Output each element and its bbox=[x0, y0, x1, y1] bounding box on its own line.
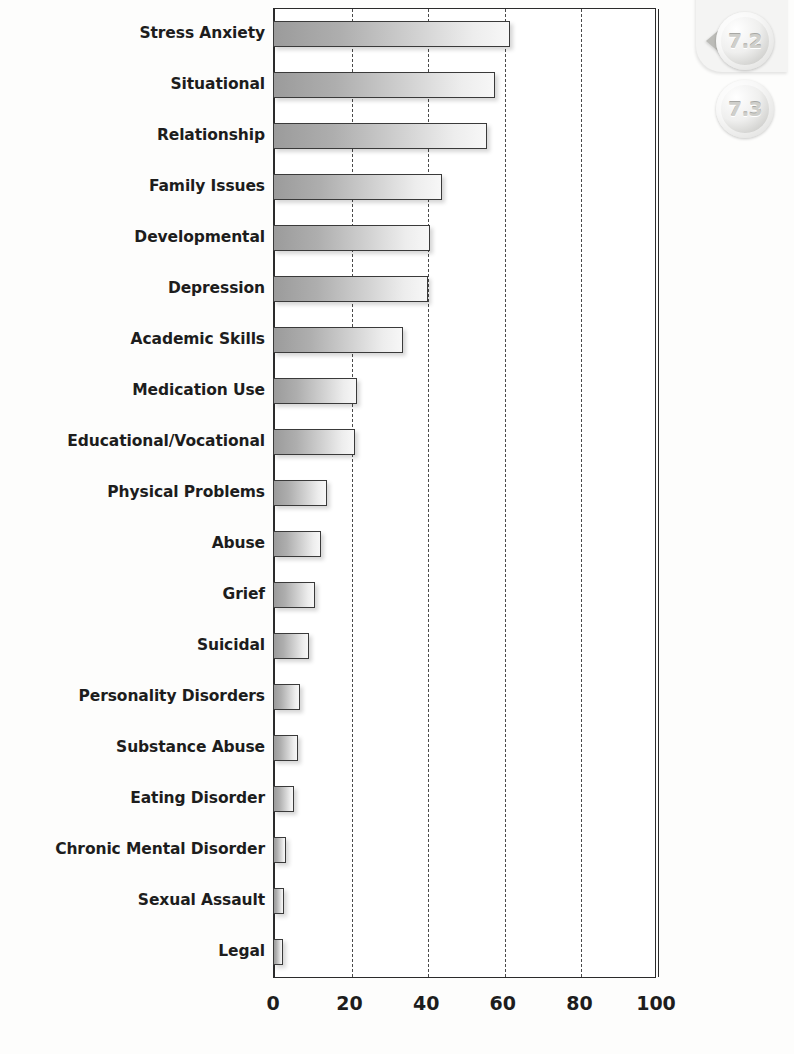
category-label: Sexual Assault bbox=[0, 891, 265, 909]
bar bbox=[273, 837, 286, 863]
bar bbox=[273, 888, 284, 914]
bar bbox=[273, 276, 428, 302]
bar bbox=[273, 72, 495, 98]
horizontal-bar-chart: Stress AnxietySituationalRelationshipFam… bbox=[0, 0, 794, 1054]
category-axis-labels: Stress AnxietySituationalRelationshipFam… bbox=[0, 8, 265, 978]
bar bbox=[273, 327, 403, 353]
category-label: Relationship bbox=[0, 126, 265, 144]
category-label: Legal bbox=[0, 942, 265, 960]
bar bbox=[273, 684, 300, 710]
category-label: Chronic Mental Disorder bbox=[0, 840, 265, 858]
bookmark-tab-7-2[interactable]: 7.2 bbox=[716, 12, 774, 70]
category-label: Grief bbox=[0, 585, 265, 603]
bar bbox=[273, 378, 357, 404]
bookmark-tab-7-3[interactable]: 7.3 bbox=[716, 80, 774, 138]
bar bbox=[273, 21, 510, 47]
bar bbox=[273, 429, 355, 455]
bar bbox=[273, 633, 309, 659]
category-label: Academic Skills bbox=[0, 330, 265, 348]
x-tick-label: 40 bbox=[413, 992, 439, 1014]
category-label: Medication Use bbox=[0, 381, 265, 399]
bar bbox=[273, 531, 321, 557]
category-label: Eating Disorder bbox=[0, 789, 265, 807]
bar bbox=[273, 225, 430, 251]
bar bbox=[273, 174, 442, 200]
x-tick-label: 60 bbox=[490, 992, 516, 1014]
x-tick-label: 80 bbox=[566, 992, 592, 1014]
bar bbox=[273, 123, 487, 149]
category-label: Situational bbox=[0, 75, 265, 93]
gridline-100 bbox=[658, 9, 659, 977]
category-label: Abuse bbox=[0, 534, 265, 552]
category-label: Personality Disorders bbox=[0, 687, 265, 705]
bar bbox=[273, 939, 283, 965]
page-bookmark-tabs: 7.2 7.3 bbox=[692, 0, 788, 150]
category-label: Physical Problems bbox=[0, 483, 265, 501]
category-label: Family Issues bbox=[0, 177, 265, 195]
category-label: Depression bbox=[0, 279, 265, 297]
bar bbox=[273, 786, 294, 812]
category-label: Suicidal bbox=[0, 636, 265, 654]
value-axis-labels: 020406080100 bbox=[0, 992, 794, 1032]
bar bbox=[273, 735, 298, 761]
category-label: Educational/Vocational bbox=[0, 432, 265, 450]
category-label: Stress Anxiety bbox=[0, 24, 265, 42]
bar bbox=[273, 582, 315, 608]
x-tick-label: 100 bbox=[636, 992, 676, 1014]
bar bbox=[273, 480, 327, 506]
x-tick-label: 20 bbox=[336, 992, 362, 1014]
category-label: Developmental bbox=[0, 228, 265, 246]
x-tick-label: 0 bbox=[266, 992, 279, 1014]
category-label: Substance Abuse bbox=[0, 738, 265, 756]
bars-layer bbox=[273, 8, 656, 978]
